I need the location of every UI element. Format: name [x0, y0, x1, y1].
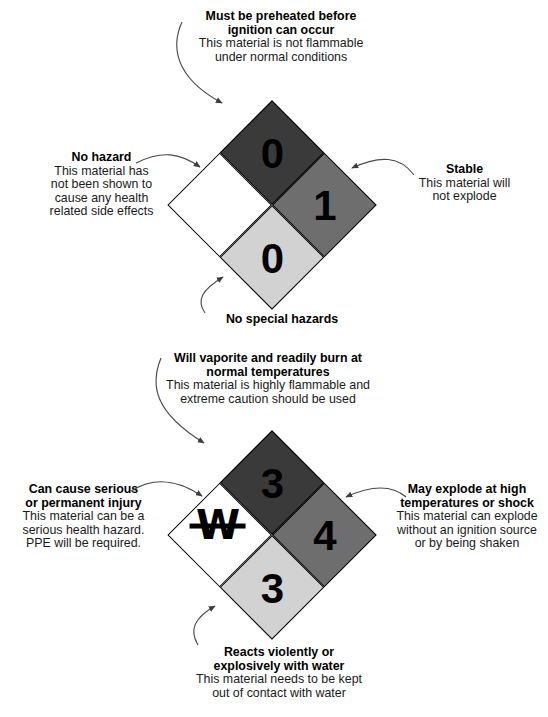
callout-headline-line: temperatures or shock [391, 497, 543, 511]
callout-headline-line: Will vaporite and readily burn at [153, 352, 383, 366]
callout-headline-line: ignition can occur [186, 24, 376, 38]
callout-description-line: not explode [398, 190, 531, 204]
callout-description-line: without an ignition source [391, 524, 543, 538]
callout-description-line: This material has [33, 165, 170, 179]
water-reactive-w-icon: W [196, 505, 239, 545]
nfpa-hazard-diagram-page: 1 0 0 Must be preheated before ignition … [0, 0, 548, 717]
callout-headline-line: explosively with water [168, 660, 390, 674]
diamond-shape-lower: 4 3 3 W [167, 430, 376, 639]
callout-description-line: serious health hazard. [9, 524, 158, 538]
callout-headline-line: Must be preheated before [186, 10, 376, 24]
callout-headline-line: Reacts violently or [168, 646, 390, 660]
diamond-shape-upper: 1 0 0 [167, 100, 376, 309]
callout-flammability-upper: Must be preheated before ignition can oc… [186, 10, 376, 64]
callout-headline-line: or permanent injury [9, 497, 158, 511]
callout-reactivity-lower: May explode at high temperatures or shoc… [391, 483, 543, 551]
water-reactive-strikethrough-icon [190, 524, 245, 529]
callout-description-line: extreme caution should be used [153, 393, 383, 407]
callout-flammability-lower: Will vaporite and readily burn at normal… [153, 352, 383, 406]
callout-headline-line: May explode at high [391, 483, 543, 497]
callout-headline-line: No special hazards [182, 313, 382, 327]
callout-description-line: out of contact with water [168, 687, 390, 701]
callout-headline-line: normal temperatures [153, 366, 383, 380]
callout-description-line: cause any health [33, 192, 170, 206]
special-hazard-symbol-lower-wrap: W [181, 499, 255, 579]
callout-description-line: This material needs to be kept [168, 673, 390, 687]
callout-health-lower: Can cause serious or permanent injury Th… [9, 483, 158, 551]
callout-description-line: PPE will be required. [9, 537, 158, 551]
callout-description-line: not been shown to [33, 178, 170, 192]
callout-description-line: This material is highly flammable and [153, 379, 383, 393]
callout-description-line: under normal conditions [186, 51, 376, 65]
callout-description-line: This material can explode [391, 510, 543, 524]
callout-headline-line: Can cause serious [9, 483, 158, 497]
callout-health-upper: No hazard This material has not been sho… [33, 151, 170, 219]
callout-reactivity-upper: Stable This material will not explode [398, 163, 531, 204]
callout-headline-line: No hazard [33, 151, 170, 165]
callout-special-hazard-lower: Reacts violently or explosively with wat… [168, 646, 390, 700]
callout-description-line: This material will [398, 177, 531, 191]
callout-special-hazard-upper: No special hazards [182, 313, 382, 327]
callout-description-line: related side effects [33, 205, 170, 219]
callout-headline-line: Stable [398, 163, 531, 177]
hazard-diamond-lower: 4 3 3 W [122, 385, 422, 685]
callout-description-line: This material can be a [9, 510, 158, 524]
callout-description-line: or by being shaken [391, 537, 543, 551]
special-hazard-symbol-upper [183, 169, 257, 243]
callout-description-line: This material is not flammable [186, 37, 376, 51]
